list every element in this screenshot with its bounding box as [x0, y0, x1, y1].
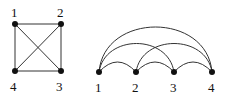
- node-2: [58, 21, 64, 27]
- label-node-1: 1: [11, 5, 18, 20]
- arc-2-4: [136, 44, 212, 73]
- label-node-2: 2: [132, 80, 139, 95]
- label-node-4: 4: [208, 80, 215, 95]
- arc-graph: 1 2 3 4: [95, 27, 215, 95]
- node-3: [58, 68, 64, 74]
- label-node-1: 1: [95, 80, 102, 95]
- node-3: [171, 69, 177, 75]
- label-node-2: 2: [57, 5, 64, 20]
- arc-1-2: [99, 62, 136, 72]
- arc-1-4: [99, 27, 212, 72]
- graph-figure: 1 2 3 4 1 2 3 4: [0, 0, 227, 98]
- node-1: [12, 21, 18, 27]
- arc-2-3: [136, 62, 174, 72]
- label-node-4: 4: [10, 79, 17, 94]
- node-4: [209, 69, 215, 75]
- node-2: [133, 69, 139, 75]
- node-1: [96, 69, 102, 75]
- label-node-3: 3: [170, 80, 177, 95]
- square-graph: 1 2 3 4: [10, 5, 64, 94]
- node-4: [12, 68, 18, 74]
- arc-3-4: [174, 62, 212, 72]
- label-node-3: 3: [56, 79, 63, 94]
